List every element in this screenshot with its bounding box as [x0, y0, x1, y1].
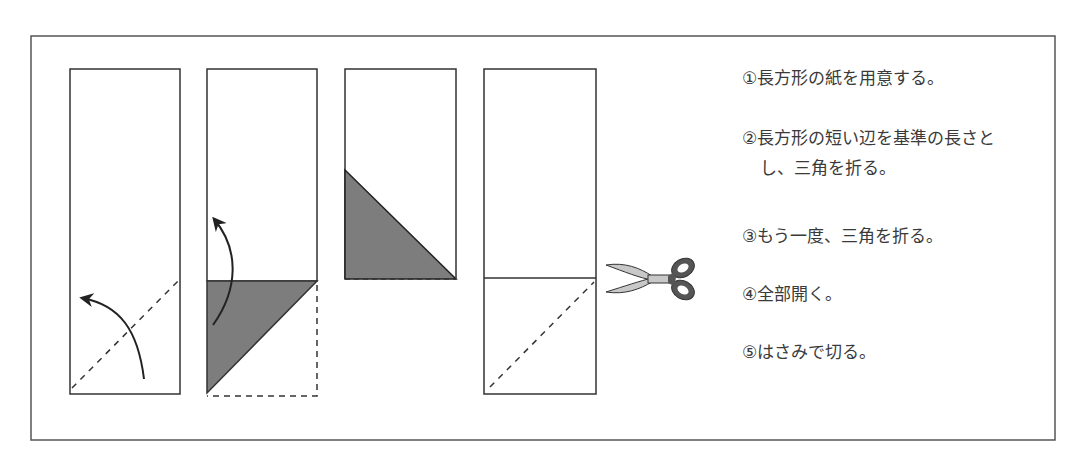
- scissors-icon: [606, 254, 698, 304]
- step-1: ①長方形の紙を用意する。: [742, 64, 944, 92]
- step-2-line-1: ②長方形の短い辺を基準の長さと: [742, 124, 995, 152]
- step-4: ④全部開く。: [742, 280, 842, 308]
- panel-3: [345, 69, 456, 279]
- step-2-line-2: し、三角を折る。: [760, 154, 896, 182]
- panel-2: [207, 69, 317, 396]
- step-5: ⑤はさみで切る。: [742, 338, 876, 366]
- panel-4: [484, 69, 596, 394]
- folded-triangle: [207, 281, 317, 393]
- step-3: ③もう一度、三角を折る。: [742, 222, 943, 250]
- panel-1: [70, 69, 180, 394]
